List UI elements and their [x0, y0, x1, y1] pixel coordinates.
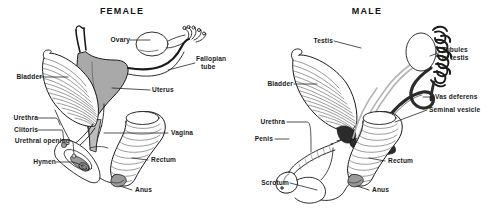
leader-anus: [120, 186, 132, 190]
female-label-ovary: Ovary: [96, 36, 130, 44]
female-label-uterus: Uterus: [152, 86, 174, 94]
urethral-opening-shape: [72, 154, 76, 158]
male-label-anus: Anus: [372, 186, 389, 194]
leader-anus: [357, 186, 369, 190]
female-label-fallopian-tube-line2: tube: [196, 63, 216, 71]
male-label-tubules-line1: Tubules: [442, 46, 468, 53]
female-label-urethra: Urethra: [0, 114, 38, 122]
female-label-rectum: Rectum: [151, 156, 176, 164]
male-label-rectum: Rectum: [388, 157, 413, 165]
male-label-scrotum: Scrotum: [247, 179, 289, 187]
male-label-penis: Penis: [247, 135, 273, 143]
female-label-fallopian-tube: Fallopiantube: [196, 55, 226, 72]
female-label-hymen: Hymen: [14, 158, 56, 166]
testis-shape: [406, 33, 436, 71]
ovary-shape: [136, 32, 168, 56]
male-label-testis: Testis: [301, 37, 333, 45]
female-label-vagina: Vagina: [171, 129, 193, 137]
female-anatomy-illustration: [0, 0, 244, 210]
scrotum-shape: [295, 177, 326, 203]
female-label-bladder: Bladder: [2, 73, 42, 81]
leader-fallopian: [168, 63, 195, 70]
diagram-page: FEMALE: [0, 0, 489, 210]
male-panel: MALE: [245, 0, 489, 210]
female-panel: FEMALE: [0, 0, 244, 210]
male-label-tubules-of-testis: Tubulesof testis: [442, 46, 469, 63]
female-label-anus: Anus: [135, 186, 152, 194]
male-label-vas-deferens: Vas deferens: [435, 93, 478, 101]
leader-urethra: [38, 118, 60, 125]
female-label-urethral-opening: Urethral opening: [0, 137, 70, 145]
male-label-bladder: Bladder: [257, 80, 293, 88]
male-label-seminal-vesicle: Seminal vesicle: [429, 106, 480, 114]
male-label-tubules-line2: of testis: [442, 54, 469, 61]
leader-seminal-vesicle: [395, 110, 427, 122]
anus-shape: [348, 174, 363, 186]
anus-shape: [111, 174, 126, 186]
leader-testis: [334, 41, 361, 48]
female-label-clitoris: Clitoris: [0, 126, 38, 134]
leader-urethra: [287, 122, 311, 152]
male-label-urethra: Urethra: [247, 118, 285, 126]
female-label-fallopian-tube-line1: Fallopian: [196, 55, 226, 62]
